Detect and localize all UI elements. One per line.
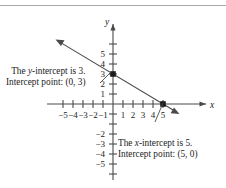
y-tick-label: −3	[95, 139, 105, 149]
figure-container: −5 −4 −3 −2 −1 1 2 3 4 5 1 2 3 4 5 −2 −3…	[0, 0, 226, 188]
x-axis	[47, 101, 206, 106]
x-tick-label: 4	[151, 110, 156, 120]
x-tick-label: −3	[78, 110, 88, 120]
x-intercept-callout-line1: The x-intercept is 5.	[118, 138, 198, 149]
y-intercept-callout-line2: Intercept point: (0, 3)	[6, 77, 86, 88]
y-intercept-callout: The y-intercept is 3. Intercept point: (…	[6, 66, 86, 89]
y-axis	[110, 24, 115, 180]
x-tick-label: −2	[88, 110, 98, 120]
x-tick-label: −5	[58, 110, 68, 120]
x-intercept-callout: The x-intercept is 5. Intercept point: (…	[118, 138, 198, 161]
x-tick-label: 2	[131, 110, 136, 120]
y-tick-label: −5	[95, 159, 105, 169]
y-intercept-callout-line1-prefix: The	[11, 66, 28, 76]
y-tick-label: 5	[101, 49, 106, 59]
x-tick-labels: −5 −4 −3 −2 −1 1 2 3 4 5	[58, 110, 166, 120]
y-intercept-callout-line1: The y-intercept is 3.	[6, 66, 86, 77]
y-tick-label: −4	[95, 149, 105, 159]
y-tick-label: 1	[101, 89, 106, 99]
x-tick-label: 5	[161, 110, 166, 120]
y-tick-label: 3	[101, 69, 106, 79]
x-intercept-callout-line1-prefix: The	[118, 138, 135, 148]
y-tick-label: −2	[95, 129, 105, 139]
x-intercept-callout-line2: Intercept point: (5, 0)	[118, 149, 198, 160]
x-tick-label: −1	[98, 110, 108, 120]
x-tick-label: 1	[121, 110, 126, 120]
x-axis-name: x	[209, 100, 215, 110]
x-intercept-callout-line1-suffix: -intercept is 5.	[139, 138, 192, 148]
x-tick-label: −4	[68, 110, 78, 120]
x-tick-label: 3	[141, 110, 146, 120]
y-intercept-callout-line1-suffix: -intercept is 3.	[32, 66, 85, 76]
y-axis-name: y	[104, 17, 110, 27]
